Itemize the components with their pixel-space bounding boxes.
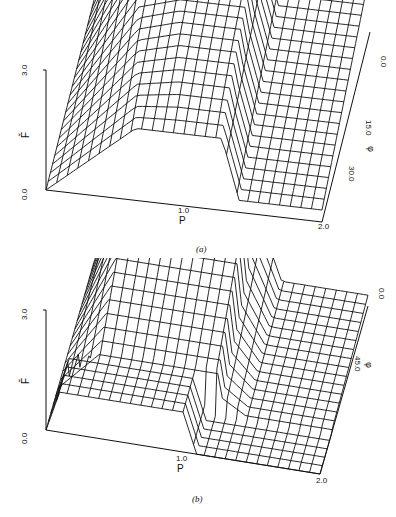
chart-panel-b: 3.0 0.0 F̌ 1.0 P 2.0 0.0 45.0 φ (b) [0,258,396,517]
surface-plot-a [0,0,396,258]
y-tick-0: 0.0 [377,288,386,299]
chart-panel-a: 3.0 0.0 F̌ 1.0 P 2.0 0.0 15.0 30.0 φ (a) [0,0,396,258]
y-axis-label: φ [364,362,374,368]
x-tick-1: 1.0 [178,206,189,215]
y-tick-1: 15.0 [364,120,373,136]
z-tick-bottom: 0.0 [20,433,29,444]
x-axis-label: P [179,215,186,226]
z-tick-bottom: 0.0 [20,189,29,200]
y-tick-2: 30.0 [347,166,356,182]
x-axis-label: P [177,463,184,474]
z-axis-label: F̌ [20,378,31,384]
y-axis-label: φ [366,146,376,152]
panel-caption-a: (a) [196,244,207,254]
x-tick-1: 1.0 [176,454,187,463]
x-tick-2: 2.0 [316,476,327,485]
y-tick-0: 0.0 [379,56,388,67]
y-tick-1: 45.0 [353,356,362,372]
panel-caption-b: (b) [192,494,203,504]
z-tick-top: 3.0 [20,65,29,76]
surface-plot-b [0,258,396,517]
x-tick-2: 2.0 [318,222,329,231]
z-axis-label: F̌ [20,132,31,138]
z-tick-top: 3.0 [20,309,29,320]
